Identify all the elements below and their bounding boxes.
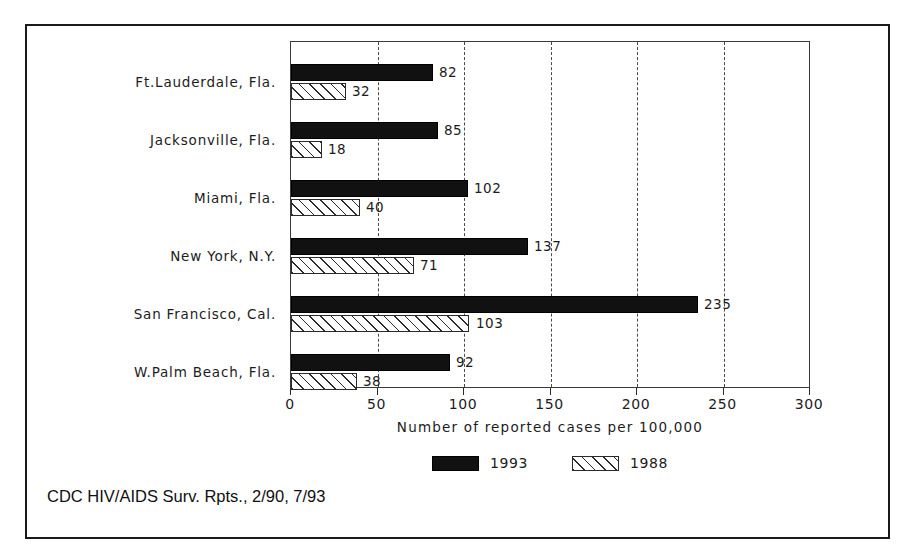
legend-label-1988: 1988 — [630, 455, 668, 471]
x-tick-300 — [809, 388, 810, 395]
bar-group-miami: 102 40 — [291, 180, 809, 218]
x-tick-100 — [463, 388, 464, 395]
x-tick-label-150: 150 — [535, 396, 564, 412]
bar-1988-new-york[interactable] — [291, 257, 414, 274]
category-axis: Ft.Lauderdale, Fla. Jacksonville, Fla. M… — [27, 41, 286, 388]
category-label-2: Miami, Fla. — [26, 190, 276, 206]
legend-entry-1993[interactable]: 1993 — [432, 455, 528, 471]
x-tick-200 — [636, 388, 637, 395]
chart-legend: 1993 1988 — [290, 452, 810, 474]
bar-1993-w-palm-beach[interactable] — [291, 354, 450, 371]
category-label-0: Ft.Lauderdale, Fla. — [26, 74, 276, 90]
bar-value-1993-new-york: 137 — [534, 238, 561, 255]
bar-value-1988-san-francisco: 103 — [476, 315, 503, 332]
x-tick-label-250: 250 — [708, 396, 737, 412]
bar-1993-miami[interactable] — [291, 180, 468, 197]
figure-frame: Ft.Lauderdale, Fla. Jacksonville, Fla. M… — [25, 24, 890, 539]
category-label-5: W.Palm Beach, Fla. — [26, 364, 276, 380]
legend-swatch-1988-icon — [572, 456, 619, 471]
source-note: CDC HIV/AIDS Surv. Rpts., 2/90, 7/93 — [47, 487, 325, 506]
category-label-4: San Francisco, Cal. — [26, 306, 276, 322]
bar-1988-jacksonville[interactable] — [291, 141, 322, 158]
bar-value-1993-jacksonville: 85 — [444, 122, 462, 139]
bar-value-1988-miami: 40 — [366, 199, 384, 216]
bar-value-1988-jacksonville: 18 — [328, 141, 346, 158]
bar-value-1993-miami: 102 — [474, 180, 501, 197]
bar-value-1993-ft-lauderdale: 82 — [439, 64, 457, 81]
bar-group-jacksonville: 85 18 — [291, 122, 809, 160]
plot-area: 82 32 85 18 102 40 137 71 235 — [290, 41, 810, 388]
bar-1988-miami[interactable] — [291, 199, 360, 216]
x-tick-150 — [550, 388, 551, 395]
x-tick-label-50: 50 — [367, 396, 386, 412]
bar-1993-jacksonville[interactable] — [291, 122, 438, 139]
bar-value-1988-new-york: 71 — [420, 257, 438, 274]
bar-group-ft-lauderdale: 82 32 — [291, 64, 809, 102]
bar-1993-ft-lauderdale[interactable] — [291, 64, 433, 81]
bar-value-1993-w-palm-beach: 92 — [456, 354, 474, 371]
bar-1988-ft-lauderdale[interactable] — [291, 83, 346, 100]
legend-label-1993: 1993 — [490, 455, 528, 471]
x-axis: 0 50 100 150 200 250 300 — [290, 388, 810, 414]
bar-1988-san-francisco[interactable] — [291, 315, 469, 332]
x-tick-label-200: 200 — [622, 396, 651, 412]
bar-group-new-york: 137 71 — [291, 238, 809, 276]
x-tick-label-300: 300 — [795, 396, 824, 412]
bar-1993-san-francisco[interactable] — [291, 296, 698, 313]
x-tick-0 — [290, 388, 291, 395]
bar-value-1993-san-francisco: 235 — [704, 296, 731, 313]
bar-1993-new-york[interactable] — [291, 238, 528, 255]
x-tick-label-0: 0 — [285, 396, 295, 412]
bar-group-w-palm-beach: 92 38 — [291, 354, 809, 392]
x-tick-label-100: 100 — [449, 396, 478, 412]
x-tick-250 — [723, 388, 724, 395]
x-tick-50 — [377, 388, 378, 395]
legend-entry-1988[interactable]: 1988 — [572, 455, 668, 471]
x-axis-title: Number of reported cases per 100,000 — [290, 419, 810, 435]
legend-swatch-1993-icon — [432, 456, 479, 471]
bar-group-san-francisco: 235 103 — [291, 296, 809, 334]
bar-value-1988-ft-lauderdale: 32 — [352, 83, 370, 100]
category-label-3: New York, N.Y. — [26, 248, 276, 264]
category-label-1: Jacksonville, Fla. — [26, 132, 276, 148]
